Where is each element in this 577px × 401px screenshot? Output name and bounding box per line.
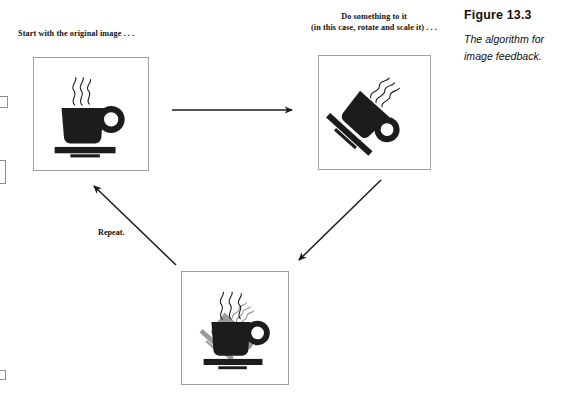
cup-handle-icon (248, 324, 267, 343)
original-cup-illustration (34, 58, 148, 170)
arrow-feedback-to-original (94, 186, 176, 265)
transformed-cup-illustration (319, 56, 430, 169)
saucer-base-icon (70, 154, 99, 157)
transformed-image-frame (318, 55, 431, 170)
saucer-base-icon (218, 366, 246, 369)
repeat-label: Repeat. (98, 228, 125, 237)
page-edge-fragment-middle (0, 160, 6, 184)
figure-number: Figure 13.3 (464, 8, 572, 22)
cup-handle-icon (101, 109, 122, 130)
figure-caption-block: Figure 13.3 The algorithm for image feed… (464, 8, 572, 64)
step2-caption-line1: Do something to it (298, 12, 450, 22)
figure-stage: Start with the original image . . . Do s… (0, 0, 577, 401)
saucer-icon (204, 359, 263, 365)
steam-icon (73, 78, 91, 106)
saucer-icon (55, 147, 116, 153)
page-edge-fragment-bottom (0, 370, 6, 380)
feedback-image-frame (181, 271, 289, 385)
step1-caption: Start with the original image . . . (18, 29, 134, 39)
black-upright-cup-layer (204, 292, 267, 369)
cup-body-icon (211, 322, 250, 356)
arrow-transformed-to-feedback (299, 180, 381, 260)
step2-caption-line2: (in this case, rotate and scale it) . . … (298, 23, 450, 33)
original-image-frame (33, 57, 149, 171)
page-edge-fragment-top (0, 96, 8, 108)
cup-body-icon (62, 108, 104, 143)
figure-description: The algorithm for image feedback. (464, 31, 572, 64)
feedback-cup-illustration (182, 272, 288, 384)
